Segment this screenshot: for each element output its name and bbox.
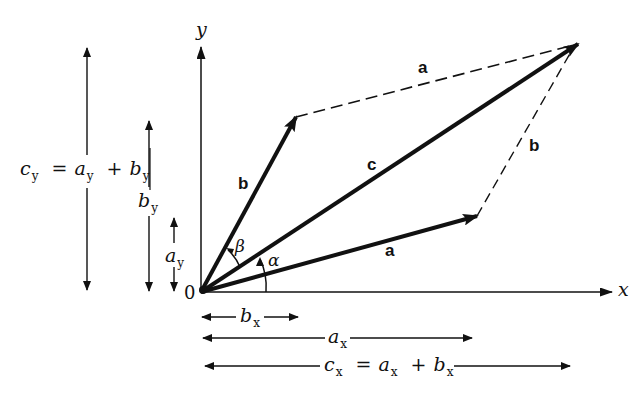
- vector-c-label: c: [367, 156, 376, 173]
- cx-equation: cx =ax +bx: [324, 355, 453, 374]
- vector-b-label: b: [238, 175, 248, 192]
- vector-b: [201, 117, 296, 292]
- angle-alpha-label: α: [268, 252, 279, 269]
- x-axis-label: x: [618, 280, 629, 299]
- cy-equation: cy =ay +by: [20, 159, 149, 178]
- dashed-a-side: [296, 46, 570, 117]
- diagram-canvas: [0, 0, 644, 401]
- y-axis-label: y: [196, 20, 207, 39]
- vector-diagram: y x 0 b c a a b β α cy =ay +by by ay bx …: [0, 0, 644, 401]
- dashed-b-side: [477, 50, 572, 216]
- vector-a-label: a: [385, 242, 394, 259]
- ay-label: ay: [165, 246, 184, 265]
- by-label: by: [138, 191, 158, 210]
- bx-label: bx: [240, 306, 260, 325]
- ax-label: ax: [328, 327, 347, 346]
- origin-label: 0: [184, 284, 195, 302]
- dashed-a-label: a: [418, 59, 427, 76]
- angle-beta-label: β: [235, 238, 245, 255]
- dashed-b-label: b: [529, 137, 539, 154]
